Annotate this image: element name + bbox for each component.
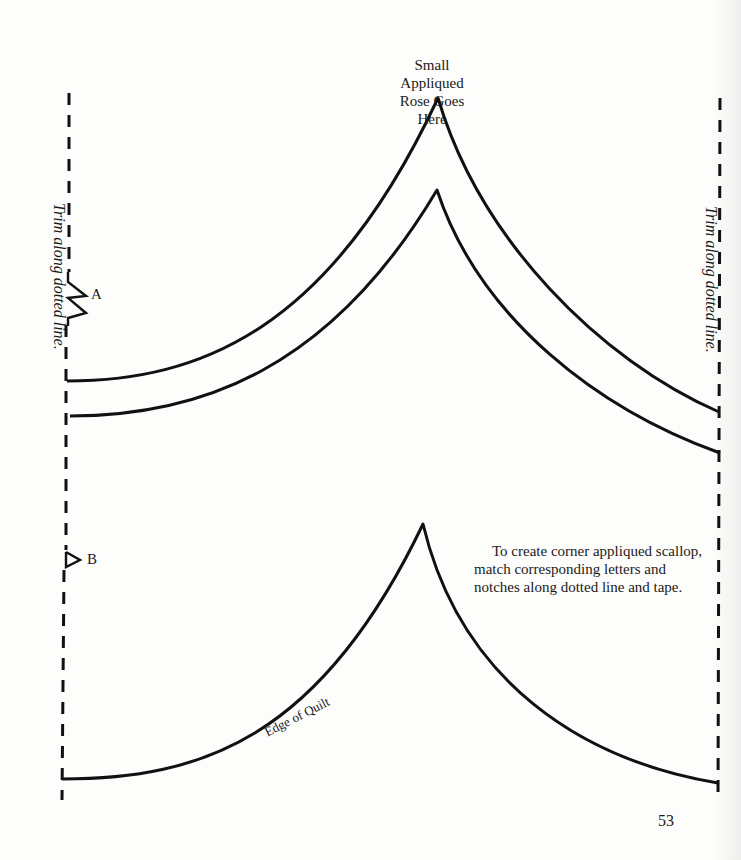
inner-appliqued-scallop bbox=[70, 190, 720, 453]
rose-placement-label: Small Appliqued Rose Goes Here bbox=[384, 56, 480, 128]
assembly-instructions: To create corner appliqued scallop, matc… bbox=[474, 542, 709, 596]
double-notch-a bbox=[68, 272, 86, 326]
trim-instruction-left: Trim along dotted line. bbox=[50, 203, 68, 350]
rose-label-line-1: Small Appliqued bbox=[384, 56, 480, 92]
page-number: 53 bbox=[658, 812, 674, 830]
rose-label-line-2: Rose Goes Here bbox=[384, 92, 480, 128]
right-trim-line bbox=[718, 98, 720, 802]
notch-b-label: B bbox=[87, 551, 97, 568]
notch-a-label: A bbox=[91, 286, 102, 303]
single-notch-b bbox=[66, 552, 80, 567]
pattern-drawing bbox=[0, 0, 741, 860]
pattern-page: Small Appliqued Rose Goes Here Trim alon… bbox=[0, 0, 741, 860]
left-trim-line-bottom bbox=[62, 570, 64, 800]
trim-instruction-right: Trim along dotted line. bbox=[702, 206, 720, 353]
